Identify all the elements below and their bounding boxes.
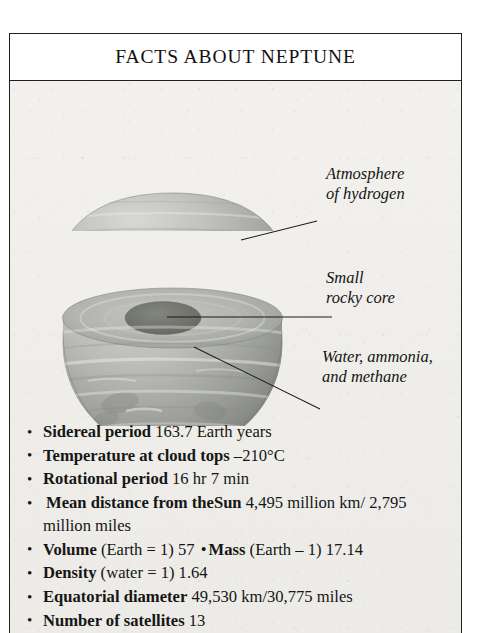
page-title: FACTS ABOUT NEPTUNE [115,46,356,68]
bullet-icon: • [27,468,32,490]
fact-number-of-satellites: •Number of satellites 13 [26,610,450,633]
fact-equatorial-diameter: •Equatorial diameter 49,530 km/30,775 mi… [26,586,450,609]
fact-value: 16 hr 7 min [168,469,249,488]
bullet-icon: • [27,538,32,560]
panel-body: Atmosphere of hydrogen Small rocky core … [10,81,461,633]
callout-mantle-composition: Water, ammonia, and methane [322,347,433,388]
fact-label: Temperature at cloud tops [43,446,230,465]
fact-label: Sidereal period [43,422,151,441]
fact-density: •Density (water = 1) 1.64 [26,562,450,585]
fact-label: Number of satellites [43,611,185,630]
fact-value: –210°C [230,446,285,465]
fact-label: Density [43,563,96,582]
title-band: FACTS ABOUT NEPTUNE [10,34,461,81]
fact-value-secondary: (Earth – 1) 17.14 [245,540,363,559]
facts-list: •Sidereal period 163.7 Earth years •Temp… [26,421,450,633]
fact-value: 49,530 km/30,775 miles [187,587,352,606]
bullet-icon: • [27,586,32,608]
bullet-icon: • [27,609,32,631]
fact-rotational-period: •Rotational period 16 hr 7 min [26,468,450,491]
fact-mean-distance: •Mean distance from theSun 4,495 million… [26,492,450,537]
fact-value: (water = 1) 1.64 [96,563,207,582]
fact-value: 13 [185,611,206,630]
callout-rocky-core: Small rocky core [326,268,395,309]
inline-bullet-icon: • [199,540,209,559]
bullet-icon: • [27,421,32,443]
fact-label: Rotational period [43,469,168,488]
callout-atmosphere: Atmosphere of hydrogen [326,164,405,205]
bullet-icon: • [27,562,32,584]
bullet-icon: • [27,492,32,514]
lower-hemisphere-bowl [50,231,300,426]
fact-label-secondary: Mass [209,540,246,559]
fact-label: Mean distance from theSun [43,493,242,512]
fact-label: Volume [43,540,97,559]
fact-sidereal-period: •Sidereal period 163.7 Earth years [26,421,450,444]
fact-label: Equatorial diameter [43,587,187,606]
fact-value: (Earth = 1) 57 [97,540,199,559]
fact-value: 163.7 Earth years [151,422,272,441]
fact-volume-and-mass: •Volume (Earth = 1) 57 •Mass (Earth – 1)… [26,539,450,562]
facts-panel: FACTS ABOUT NEPTUNE [9,33,462,633]
fact-temperature: •Temperature at cloud tops –210°C [26,445,450,468]
bullet-icon: • [27,444,32,466]
